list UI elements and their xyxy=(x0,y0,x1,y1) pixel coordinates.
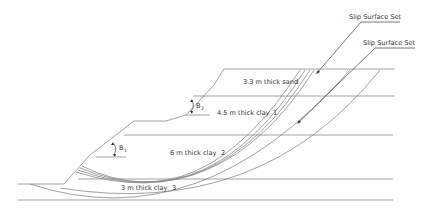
slip-surface-set-annotation-2: Slip Surface Set xyxy=(297,39,416,124)
slope-profile xyxy=(64,69,224,184)
slip-surface xyxy=(76,70,314,183)
layer-label-clay3: 3 m thick clay xyxy=(121,184,167,192)
layer-label-sand: 3.3 m thick sand xyxy=(243,78,298,86)
leader-line xyxy=(298,48,375,123)
slip-surface xyxy=(82,70,300,182)
arrowhead-icon xyxy=(190,111,193,114)
layer-label-clay1: 4.5 m thick clay xyxy=(217,109,270,117)
layer-index-clay3: 3 xyxy=(172,184,176,192)
leader-line xyxy=(317,22,361,73)
layer-label-clay2: 6 m thick clay xyxy=(170,149,216,157)
layer-index-clay1: 1 xyxy=(273,109,277,117)
slip-surface-set-label: Slip Surface Set xyxy=(363,39,416,47)
slip-surface xyxy=(60,70,380,194)
slip-surface-set-label: Slip Surface Set xyxy=(349,13,402,21)
slip-surface xyxy=(78,70,310,183)
angle-b1-marker: B 1 xyxy=(111,142,127,157)
angle-subscript: 2 xyxy=(201,106,204,111)
layer-boundaries xyxy=(18,69,395,200)
layer-index-clay2: 2 xyxy=(221,149,225,157)
slope-stability-diagram: Slip Surface Set Slip Surface Set 3.3 m … xyxy=(0,0,426,210)
angle-b2-marker: B 2 xyxy=(190,99,204,114)
angle-subscript: 1 xyxy=(124,148,127,153)
arrowhead-icon xyxy=(113,154,116,157)
slip-surface xyxy=(80,70,305,182)
